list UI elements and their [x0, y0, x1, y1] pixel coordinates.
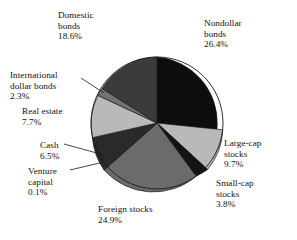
pie-label-large-cap-stocks-line2: stocks: [224, 149, 262, 160]
pie-label-small-cap-stocks-value: 3.8%: [216, 199, 254, 210]
pie-label-foreign-stocks: Foreign stocks 24.9%: [98, 204, 153, 225]
pie-label-domestic-bonds-line1: Domestic: [58, 10, 94, 21]
pie-label-domestic-bonds: Domestic bonds 18.6%: [58, 10, 94, 42]
pie-label-real-estate-value: 7.7%: [22, 117, 63, 128]
pie-label-international-dollar-bonds-line2: dollar bonds: [10, 81, 58, 92]
pie-label-large-cap-stocks-line1: Large-cap: [224, 138, 262, 149]
pie-label-venture-capital-value: 0.1%: [28, 187, 57, 198]
pie-label-foreign-stocks-line1: Foreign stocks: [98, 204, 153, 215]
pie-label-cash-line1: Cash: [40, 140, 59, 151]
pie-label-international-dollar-bonds-line1: International: [10, 70, 58, 81]
pie-label-venture-capital: Venture capital 0.1%: [28, 166, 57, 198]
pie-label-nondollar-bonds-value: 26.4%: [204, 39, 242, 50]
pie-label-international-dollar-bonds-value: 2.3%: [10, 91, 58, 102]
pie-label-small-cap-stocks-line1: Small-cap: [216, 178, 254, 189]
pie-label-real-estate: Real estate 7.7%: [22, 106, 63, 127]
pie-label-large-cap-stocks: Large-cap stocks 9.7%: [224, 138, 262, 170]
pie-label-small-cap-stocks-line2: stocks: [216, 189, 254, 200]
pie-label-large-cap-stocks-value: 9.7%: [224, 159, 262, 170]
pie-label-cash-value: 6.5%: [40, 151, 59, 162]
pie-label-international-dollar-bonds: International dollar bonds 2.3%: [10, 70, 58, 102]
pie-chart-figure: Domestic bonds 18.6% Nondollar bonds 26.…: [0, 0, 297, 240]
pie-label-foreign-stocks-value: 24.9%: [98, 215, 153, 226]
pie-label-nondollar-bonds: Nondollar bonds 26.4%: [204, 18, 242, 50]
pie-label-venture-capital-line1: Venture: [28, 166, 57, 177]
pie-label-domestic-bonds-line2: bonds: [58, 21, 94, 32]
leader-line-international-dollar-bonds: [81, 78, 104, 93]
pie-label-small-cap-stocks: Small-cap stocks 3.8%: [216, 178, 254, 210]
pie-label-real-estate-line1: Real estate: [22, 106, 63, 117]
pie-label-venture-capital-line2: capital: [28, 177, 57, 188]
leader-line-venture-capital: [70, 162, 104, 170]
pie-label-cash: Cash 6.5%: [40, 140, 59, 161]
pie-label-nondollar-bonds-line1: Nondollar: [204, 18, 242, 29]
pie-label-nondollar-bonds-line2: bonds: [204, 29, 242, 40]
pie-label-domestic-bonds-value: 18.6%: [58, 31, 94, 42]
